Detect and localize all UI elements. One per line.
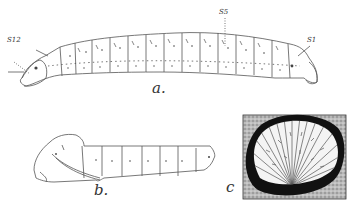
scientific-figure: S12 S5 S1 a. b. c <box>0 0 352 207</box>
label-s1: S1 <box>307 36 316 44</box>
panel-label-c: c <box>226 178 234 196</box>
label-s5: S5 <box>219 8 228 16</box>
detail-inset-drawing <box>0 0 352 207</box>
panel-label-b: b. <box>94 181 108 199</box>
panel-label-a: a. <box>152 79 166 97</box>
label-s12: S12 <box>7 36 21 44</box>
